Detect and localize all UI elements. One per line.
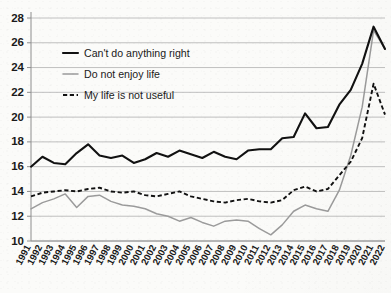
legend-label: My life is not useful	[84, 89, 174, 101]
y-axis-tick-label: 12	[11, 210, 24, 222]
y-axis-tick-label: 22	[11, 86, 24, 98]
line-chart: 1012141618202224262819911992199319941995…	[0, 0, 391, 293]
legend-label: Do not enjoy life	[84, 68, 160, 80]
chart-canvas: 1012141618202224262819911992199319941995…	[0, 0, 391, 293]
series-line	[31, 84, 385, 203]
y-axis-tick-label: 14	[11, 185, 24, 197]
x-axis-labels: 1991199219931994199519961997199819992000…	[13, 242, 387, 267]
legend-label: Can't do anything right	[84, 47, 190, 59]
y-axis-tick-label: 28	[11, 12, 24, 24]
series-line	[31, 30, 385, 234]
y-gridlines: 10121416182022242628	[11, 12, 385, 247]
y-axis-tick-label: 26	[11, 36, 24, 48]
y-axis-tick-label: 20	[11, 111, 24, 123]
y-axis-tick-label: 24	[11, 61, 24, 73]
y-axis-tick-label: 18	[11, 135, 24, 147]
y-axis-tick-label: 16	[11, 160, 24, 172]
